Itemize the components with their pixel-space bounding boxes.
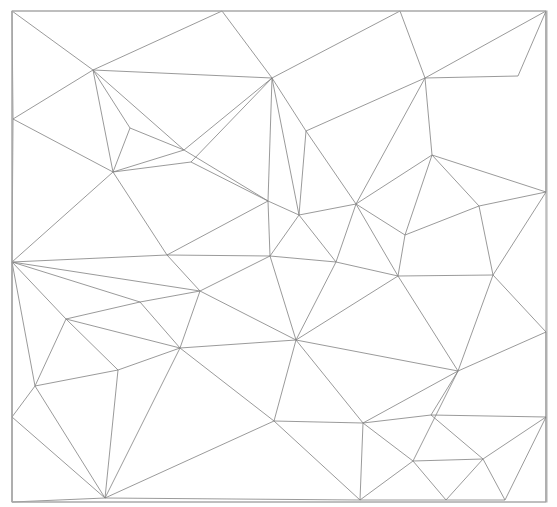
- mesh-canvas: [0, 0, 557, 507]
- mesh-figure: [0, 0, 557, 507]
